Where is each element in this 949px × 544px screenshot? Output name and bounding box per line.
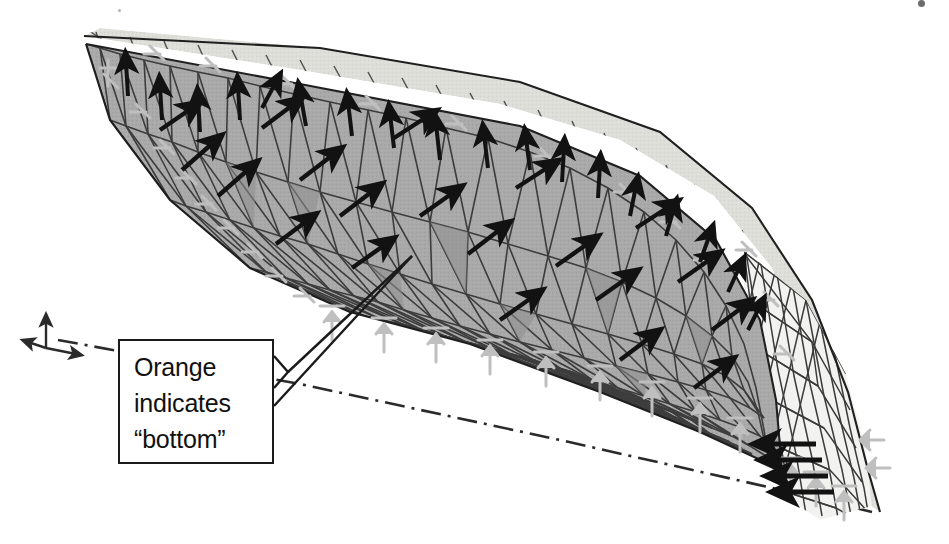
callout-box: Orange indicates “bottom” [118, 339, 274, 464]
scan-artifact-dot [118, 9, 121, 12]
callout-text: Orange indicates “bottom” [134, 349, 270, 457]
figure-canvas: Orange indicates “bottom” [0, 0, 949, 544]
scan-artifact-dot [918, 0, 925, 7]
